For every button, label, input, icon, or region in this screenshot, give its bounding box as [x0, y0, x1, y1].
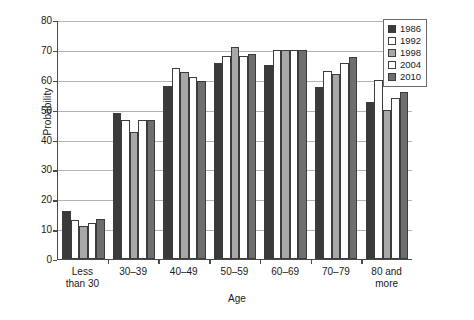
legend-item: 2010 [388, 71, 421, 83]
bar [349, 57, 358, 259]
legend-item-label: 1986 [400, 24, 421, 34]
y-axis-tick-label: 0 [22, 255, 52, 265]
bar [239, 56, 248, 259]
bar [273, 50, 282, 259]
bar [197, 81, 206, 259]
bar [130, 132, 139, 259]
x-axis-tick-mark [260, 260, 261, 264]
bar [374, 80, 383, 259]
bar [315, 87, 324, 259]
x-axis-category-label: 70–79 [311, 266, 362, 278]
bar [264, 65, 273, 259]
legend: 19861992199820042010 [383, 19, 427, 87]
plot-area [57, 21, 412, 260]
legend-item: 2004 [388, 59, 421, 71]
bar [281, 50, 290, 259]
bar [400, 92, 409, 259]
bar-chart: Probability 01020304050607080 Less than … [0, 0, 474, 320]
y-axis-tick-label: 80 [22, 16, 52, 26]
bar [391, 98, 400, 259]
bar [71, 220, 80, 259]
x-axis-tick-mark [209, 260, 210, 264]
bar [366, 102, 375, 259]
y-axis-tick-label: 30 [22, 165, 52, 175]
bar [180, 72, 189, 259]
x-axis-category-label: Less than 30 [57, 266, 108, 290]
bar [147, 120, 156, 259]
bar [96, 219, 105, 259]
bar [231, 47, 240, 259]
bar-group [210, 21, 261, 259]
legend-item: 1986 [388, 23, 421, 35]
bar [113, 113, 122, 259]
x-axis-title: Age [0, 293, 474, 304]
legend-swatch-icon [388, 37, 396, 45]
bar-groups [58, 21, 412, 259]
bar [79, 226, 88, 259]
legend-item-label: 1998 [400, 48, 421, 58]
bar [138, 120, 147, 259]
y-axis-tick-mark [53, 260, 57, 261]
y-axis-tick-label: 50 [22, 106, 52, 116]
x-axis-category-label: 50–59 [209, 266, 260, 278]
y-axis-tick-label: 10 [22, 225, 52, 235]
bar [189, 77, 198, 259]
bar [340, 63, 349, 259]
bar-group [109, 21, 160, 259]
x-axis-category-label: 60–69 [260, 266, 311, 278]
bar [248, 54, 257, 259]
bar [222, 56, 231, 259]
bar [214, 63, 223, 259]
bar [163, 86, 172, 259]
legend-swatch-icon [388, 61, 396, 69]
bar [121, 120, 130, 259]
bar [298, 50, 307, 259]
bar [88, 223, 97, 259]
bar [383, 110, 392, 259]
x-axis-tick-mark [361, 260, 362, 264]
bar [290, 50, 299, 259]
bar-group [260, 21, 311, 259]
legend-item-label: 1992 [400, 36, 421, 46]
legend-item: 1992 [388, 35, 421, 47]
x-axis-tick-mark [108, 260, 109, 264]
legend-swatch-icon [388, 25, 396, 33]
x-axis-category-label: 80 and more [361, 266, 412, 290]
bar [332, 74, 341, 259]
legend-item-label: 2010 [400, 72, 421, 82]
x-axis-tick-mark [311, 260, 312, 264]
bar-group [58, 21, 109, 259]
x-axis-category-label: 40–49 [158, 266, 209, 278]
y-axis-tick-label: 60 [22, 76, 52, 86]
legend-swatch-icon [388, 49, 396, 57]
legend-item: 1998 [388, 47, 421, 59]
legend-swatch-icon [388, 73, 396, 81]
y-axis-tick-label: 40 [22, 136, 52, 146]
x-axis-tick-mark [158, 260, 159, 264]
legend-item-label: 2004 [400, 60, 421, 70]
y-axis-tick-label: 20 [22, 195, 52, 205]
bar-group [311, 21, 362, 259]
x-axis-category-label: 30–39 [108, 266, 159, 278]
bar [172, 68, 181, 259]
bar [323, 71, 332, 259]
bar-group [159, 21, 210, 259]
bar [62, 211, 71, 259]
y-axis-tick-label: 70 [22, 46, 52, 56]
